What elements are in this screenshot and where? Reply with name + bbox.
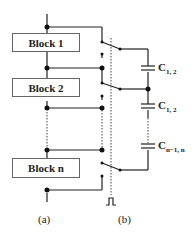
block-2: Block 2 [12, 78, 80, 97]
caption-a: (a) [38, 213, 50, 225]
block-1: Block 1 [12, 33, 80, 52]
capacitor-label-n: Cn−1, n [158, 139, 185, 154]
capacitor-label-1: C1, 2 [158, 61, 176, 76]
capacitor-label-2: C1, 2 [158, 99, 176, 114]
block-n: Block n [12, 158, 80, 178]
caption-b: (b) [118, 213, 131, 225]
diagram: Block 1 Block 2 Block n C1, 2 C1, 2 Cn−1… [0, 0, 195, 235]
